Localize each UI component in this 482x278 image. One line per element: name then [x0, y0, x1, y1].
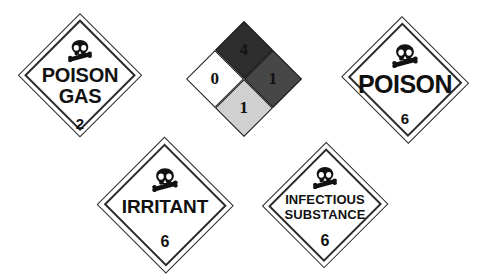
- placard-content: IRRITANT 6: [96, 137, 234, 278]
- placard-text-line-2: GAS: [59, 86, 102, 106]
- placard-content: INFECTIOUS SUBSTANCE 6: [263, 140, 387, 278]
- hazmat-symbols-canvas: POISON GAS 2 4 1 0 1: [0, 0, 482, 278]
- hazard-class-number: 2: [76, 116, 84, 131]
- placard-text-line-1: POISON: [358, 72, 452, 97]
- skull-and-crossbones-icon: [149, 167, 181, 193]
- nfpa-reactivity-value: 1: [240, 99, 249, 116]
- nfpa-704-diamond[interactable]: 4 1 0 1: [186, 21, 302, 137]
- nfpa-specific-hazard-value: 0: [211, 71, 220, 88]
- placard-text-line-2: SUBSTANCE: [285, 208, 366, 221]
- placard-poison-gas[interactable]: POISON GAS 2: [18, 13, 142, 137]
- skull-and-crossbones-icon: [389, 43, 421, 69]
- placard-text-line-1: POISON: [42, 65, 119, 85]
- skull-and-crossbones-icon: [310, 166, 340, 190]
- hazard-class-number: 6: [161, 234, 170, 250]
- placard-irritant[interactable]: IRRITANT 6: [96, 137, 234, 273]
- skull-and-crossbones-icon: [65, 39, 95, 63]
- nfpa-quadrant-grid: 4 1 0 1: [186, 21, 302, 137]
- nfpa-fire-value: 1: [269, 71, 278, 88]
- placard-poison[interactable]: POISON 6: [338, 19, 472, 141]
- nfpa-health-value: 4: [240, 42, 249, 59]
- hazard-class-number: 6: [321, 233, 330, 249]
- placard-text-line-1: INFECTIOUS: [285, 193, 365, 206]
- placard-text-line-1: IRRITANT: [122, 197, 208, 216]
- placard-infectious-substance[interactable]: INFECTIOUS SUBSTANCE 6: [263, 140, 387, 269]
- hazard-class-number: 6: [401, 111, 409, 126]
